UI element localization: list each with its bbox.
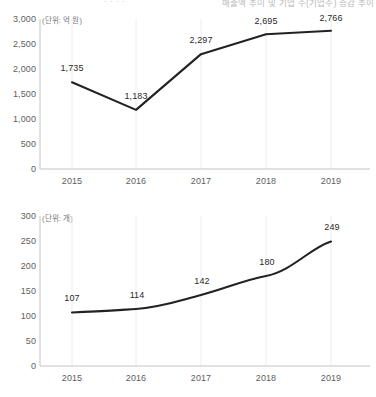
revenue-xtick-2017: 2017 <box>181 176 221 186</box>
revenue-plot-area: (단위: 억 원) 3,000 2,500 2,000 1,500 1,000 … <box>0 11 376 197</box>
header-left-fragment: · · · · <box>104 0 125 6</box>
company-count-xtick-2018: 2018 <box>246 373 286 383</box>
company-count-plot-area: (단위: 개) 300 250 200 150 100 50 0 <box>0 200 376 397</box>
company-count-datalabel-2016: 114 <box>115 290 159 300</box>
revenue-xtick-2016: 2016 <box>116 176 156 186</box>
revenue-datalabel-2016: 1,183 <box>114 91 158 101</box>
revenue-datalabel-2018: 2,695 <box>244 16 288 26</box>
company-count-xtick-2015: 2015 <box>52 373 92 383</box>
revenue-xtick-2015: 2015 <box>52 176 92 186</box>
company-count-xtick-2019: 2019 <box>311 373 351 383</box>
header-right-fragment: 매출액 추이 및 기업 수(기업수) 증감 추이 <box>222 0 375 8</box>
company-count-datalabel-2017: 142 <box>180 276 224 286</box>
revenue-line-chart: (단위: 억 원) 3,000 2,500 2,000 1,500 1,000 … <box>0 11 376 197</box>
revenue-xtick-2018: 2018 <box>246 176 286 186</box>
company-count-xtick-2017: 2017 <box>181 373 221 383</box>
revenue-xtick-2019: 2019 <box>311 176 351 186</box>
company-count-xtick-2016: 2016 <box>116 373 156 383</box>
revenue-datalabel-2015: 1,735 <box>50 63 94 73</box>
company-count-datalabel-2018: 180 <box>245 257 289 267</box>
page-header-strip: · · · · 매출액 추이 및 기업 수(기업수) 증감 추이 <box>0 0 376 11</box>
revenue-datalabel-2019: 2,766 <box>309 13 353 23</box>
revenue-datalabel-2017: 2,297 <box>179 35 223 45</box>
company-count-datalabel-2019: 249 <box>310 222 354 232</box>
chart-page: · · · · 매출액 추이 및 기업 수(기업수) 증감 추이 (단위: 억 … <box>0 0 376 397</box>
company-count-line-chart: (단위: 개) 300 250 200 150 100 50 0 <box>0 200 376 397</box>
company-count-datalabel-2015: 107 <box>50 293 94 303</box>
